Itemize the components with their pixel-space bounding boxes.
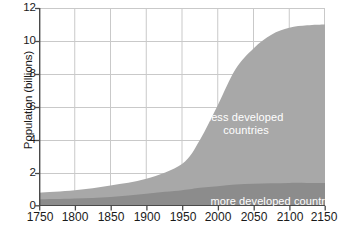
population-area-chart: Population (billions) 12 10 8 6 4 2 0	[0, 0, 344, 237]
x-tick-label-1900: 1900	[134, 211, 161, 223]
x-tick-label-2100: 2100	[277, 211, 304, 223]
x-tick-label-2050: 2050	[241, 211, 268, 223]
x-tick-label-2000: 2000	[205, 211, 232, 223]
x-tick-label-1950: 1950	[170, 211, 197, 223]
x-tick-label-2150: 2150	[311, 211, 338, 223]
x-tick-label-1800: 1800	[62, 211, 89, 223]
x-tick-label-1750: 1750	[27, 211, 54, 223]
x-axis-tick-labels: 1750 1800 1850 1900 1950 2000 2050 2100 …	[0, 0, 344, 237]
x-tick-label-1850: 1850	[98, 211, 125, 223]
